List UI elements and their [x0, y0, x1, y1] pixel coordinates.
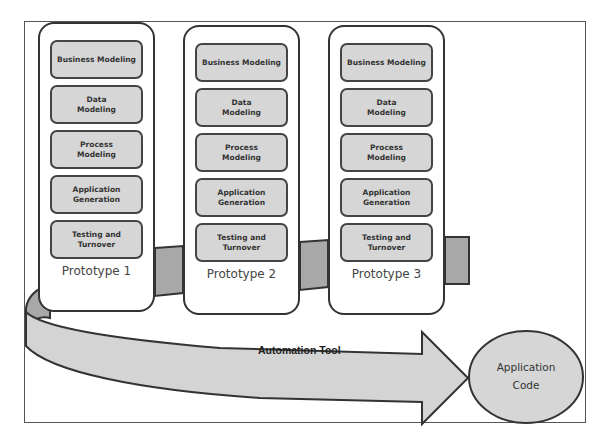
- automation-tool-label: Automation Tool: [258, 344, 341, 356]
- stage-application-generation: ApplicationGeneration: [50, 175, 143, 214]
- stage-business-modeling: Business Modeling: [340, 43, 433, 82]
- stage-business-modeling: Business Modeling: [50, 40, 143, 79]
- application-code-label: ApplicationCode: [469, 358, 583, 394]
- band-back-segment-3: [445, 237, 469, 284]
- prototype-column-3: Business Modeling DataModeling ProcessMo…: [328, 25, 445, 315]
- stage-application-generation: ApplicationGeneration: [340, 178, 433, 217]
- stage-testing-turnover: Testing andTurnover: [340, 223, 433, 262]
- stage-business-modeling: Business Modeling: [195, 43, 288, 82]
- band-back-segment-2: [300, 240, 328, 290]
- automation-arrow: [26, 312, 468, 424]
- stage-data-modeling: DataModeling: [195, 88, 288, 127]
- stage-testing-turnover: Testing andTurnover: [195, 223, 288, 262]
- stage-testing-turnover: Testing andTurnover: [50, 220, 143, 259]
- band-back-segment-1: [155, 246, 183, 296]
- stage-process-modeling: ProcessModeling: [340, 133, 433, 172]
- prototype-label: Prototype 3: [330, 267, 443, 281]
- stage-process-modeling: ProcessModeling: [195, 133, 288, 172]
- stage-application-generation: ApplicationGeneration: [195, 178, 288, 217]
- prototype-label: Prototype 1: [40, 264, 153, 278]
- prototype-column-1: Business Modeling DataModeling ProcessMo…: [38, 22, 155, 312]
- stage-process-modeling: ProcessModeling: [50, 130, 143, 169]
- stage-data-modeling: DataModeling: [340, 88, 433, 127]
- stage-data-modeling: DataModeling: [50, 85, 143, 124]
- prototype-column-2: Business Modeling DataModeling ProcessMo…: [183, 25, 300, 315]
- prototype-label: Prototype 2: [185, 267, 298, 281]
